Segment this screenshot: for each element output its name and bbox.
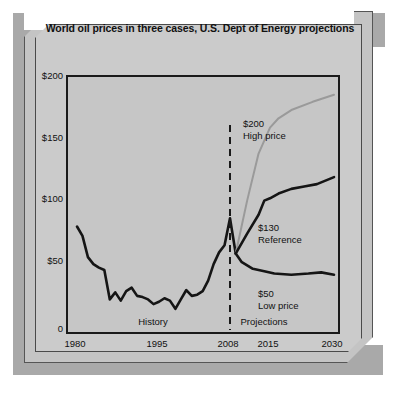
low-price-value: $50 xyxy=(258,288,299,300)
low-price-annotation: $50 Low price xyxy=(258,288,299,312)
high-price-annotation: $200 High price xyxy=(243,118,286,142)
y-tick-150: $150 xyxy=(42,131,63,142)
x-tick-1995: 1995 xyxy=(146,338,167,349)
oil-price-figure: World oil prices in three cases, U.S. De… xyxy=(0,0,419,401)
history-era-label: History xyxy=(138,316,168,327)
y-tick-200: $200 xyxy=(42,70,63,81)
projections-era-label: Projections xyxy=(241,316,288,327)
y-axis-ticks: $200 $150 $100 $50 0 xyxy=(35,75,63,334)
chart-title: World oil prices in three cases, U.S. De… xyxy=(24,22,376,34)
series-history xyxy=(77,218,236,309)
y-tick-0: 0 xyxy=(58,323,63,334)
reference-value: $130 xyxy=(258,222,302,234)
plot-svg xyxy=(68,77,342,336)
reference-label: Reference xyxy=(258,234,302,246)
x-tick-2008: 2008 xyxy=(217,338,238,349)
chart-panel: $200 $150 $100 $50 0 $200 High price $13… xyxy=(35,44,365,354)
x-tick-2015: 2015 xyxy=(257,338,278,349)
reference-annotation: $130 Reference xyxy=(258,222,302,246)
high-price-label: High price xyxy=(243,130,286,142)
x-tick-2030: 2030 xyxy=(321,338,342,349)
high-price-value: $200 xyxy=(243,118,286,130)
x-axis-ticks: 1980 1995 2008 2015 2030 xyxy=(66,338,340,352)
series-low-price xyxy=(236,254,334,275)
y-tick-50: $50 xyxy=(47,255,63,266)
low-price-label: Low price xyxy=(258,300,299,312)
plot-area: $200 High price $130 Reference $50 Low p… xyxy=(66,75,340,334)
x-tick-1980: 1980 xyxy=(64,338,85,349)
y-tick-100: $100 xyxy=(42,193,63,204)
